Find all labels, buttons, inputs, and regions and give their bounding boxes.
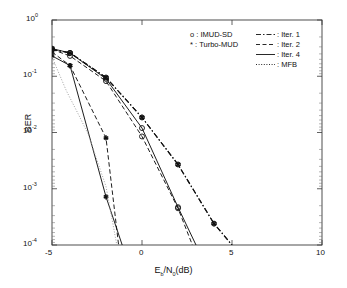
legend-label-iter2: Iter. 2	[281, 40, 300, 49]
chart-figure: 100 10-1 10-2 10-3 10-4 -5 0 5 10 BER Eb…	[0, 0, 347, 288]
y-axis-label: BER	[23, 103, 33, 143]
x-axis-label: Eb/N0(dB)	[0, 265, 347, 275]
y-tick-label-1: 10-1	[23, 70, 37, 79]
y-tick-exp-1: -1	[32, 68, 37, 74]
x-axis-label-mid: /N	[164, 265, 173, 275]
legend-style-iter2: : Iter. 2	[277, 41, 300, 49]
legend-style-iter4: : Iter. 4	[277, 51, 300, 59]
x-tick-label-0: -5	[45, 248, 52, 257]
legend-label-mfb: MFB	[281, 60, 297, 69]
y-tick-exp-3: -3	[32, 181, 37, 187]
y-tick-label-0: 100	[26, 14, 38, 23]
y-tick-label-4: 10-4	[23, 239, 37, 248]
y-tick-exp-4: -4	[32, 237, 37, 243]
x-tick-label-3: 10	[316, 248, 325, 257]
legend-style-iter1: : Iter. 1	[277, 31, 300, 39]
legend-marker-imud: o : IMUD-SD	[190, 31, 233, 39]
legend-style-mfb: : MFB	[277, 61, 297, 69]
legend-marker-symbol-star: *	[190, 40, 193, 49]
x-tick-label-1: 0	[139, 248, 143, 257]
legend-marker-turbo: * : Turbo-MUD	[190, 41, 238, 49]
legend-label-imud-sd: IMUD-SD	[200, 30, 232, 39]
legend-marker-symbol-circle: o	[190, 30, 194, 39]
x-axis-label-post: (dB)	[176, 265, 193, 275]
legend-label-iter1: Iter. 1	[281, 30, 300, 39]
legend-label-turbo-mud: Turbo-MUD	[199, 40, 238, 49]
y-tick-label-3: 10-3	[23, 183, 37, 192]
y-tick-exp-0: 0	[35, 12, 38, 18]
legend-label-iter4: Iter. 4	[281, 50, 300, 59]
x-tick-label-2: 5	[229, 248, 233, 257]
